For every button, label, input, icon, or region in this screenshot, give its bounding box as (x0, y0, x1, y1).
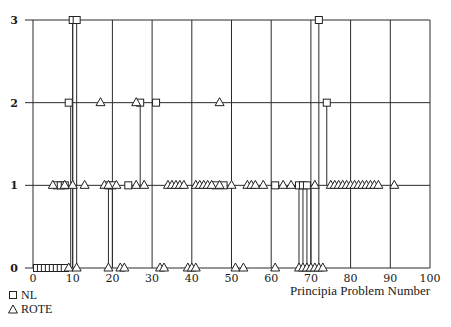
stem-lines (71, 20, 327, 268)
rote-point (96, 98, 105, 106)
rote-point (227, 180, 236, 188)
tick-labels: 01020304050607080901000123 (10, 14, 440, 285)
data-points (33, 17, 398, 272)
rote-point (231, 263, 240, 271)
x-tick-label: 40 (185, 272, 199, 285)
x-tick-label: 20 (105, 272, 119, 285)
triangle-marker-icon (8, 304, 18, 314)
rote-point (239, 263, 248, 271)
legend-label-nl: NL (21, 288, 37, 302)
nl-point (323, 99, 330, 106)
rote-point (310, 180, 319, 188)
grid-lines (25, 20, 430, 268)
x-tick-label: 60 (264, 272, 278, 285)
nl-point (125, 182, 132, 189)
nl-point (153, 99, 160, 106)
y-tick-label: 3 (10, 14, 18, 27)
x-tick-label: 50 (225, 272, 239, 285)
legend: NL ROTE (8, 288, 52, 316)
rote-point (72, 263, 81, 271)
x-tick-label: 0 (30, 272, 37, 285)
scatter-chart: 01020304050607080901000123 (0, 0, 451, 327)
y-tick-label: 1 (10, 179, 18, 192)
nl-point (272, 182, 279, 189)
rote-point (132, 180, 141, 188)
x-axis-label: Principia Problem Number (290, 283, 430, 299)
rote-point (287, 180, 296, 188)
legend-item-rote: ROTE (8, 302, 52, 316)
rote-point (140, 180, 149, 188)
legend-label-rote: ROTE (21, 302, 52, 316)
nl-point (303, 182, 310, 189)
rote-point (271, 263, 280, 271)
x-tick-label: 30 (145, 272, 159, 285)
x-tick-label: 10 (66, 272, 80, 285)
rote-point (215, 98, 224, 106)
rote-point (80, 180, 89, 188)
rote-point (104, 263, 113, 271)
legend-item-nl: NL (8, 288, 52, 302)
y-tick-label: 2 (10, 97, 18, 110)
rote-point (259, 180, 268, 188)
nl-point (73, 17, 80, 24)
nl-point (65, 99, 72, 106)
square-marker-icon (8, 290, 18, 300)
nl-point (315, 17, 322, 24)
y-tick-label: 0 (10, 262, 18, 275)
rote-point (279, 180, 288, 188)
rote-point (390, 180, 399, 188)
rote-point (68, 180, 77, 188)
